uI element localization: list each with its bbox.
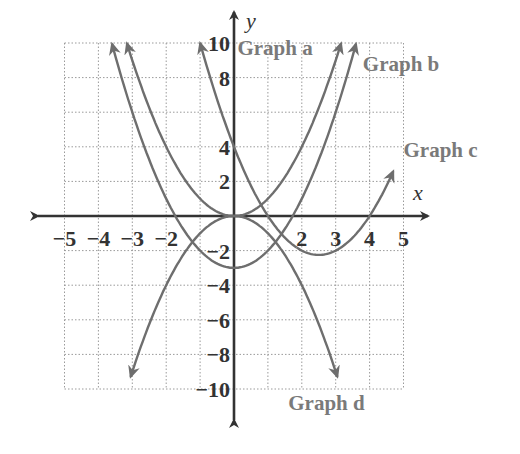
y-tick-label: 4 [219,135,230,160]
y-tick-label: −6 [206,308,230,333]
x-tick-label: −4 [87,226,111,251]
graph-a-curve-right [234,43,341,216]
y-tick-label: 8 [219,66,230,91]
graph-a-curve-left [127,43,234,216]
graph-label: Graph c [404,138,478,162]
y-tick-label: −10 [195,377,230,402]
y-tick-label: −8 [206,342,230,367]
x-axis-label: x [412,180,423,205]
graph-label: Graph d [288,391,365,415]
x-tick-label: −5 [53,226,77,251]
x-tick-label: 4 [364,226,375,251]
x-tick-label: −3 [121,226,145,251]
x-tick-label: −2 [154,226,178,251]
x-tick-label: 5 [398,226,409,251]
curves [112,43,393,377]
y-tick-label: 2 [219,169,230,194]
y-axis-label: y [244,8,256,33]
graph-d-curve-right [234,216,337,377]
y-tick-label: 10 [208,31,230,56]
graph-c-curve-right [297,171,394,255]
graph-label: Graph b [363,52,439,76]
y-tick-label: −4 [206,273,230,298]
graph-label: Graph a [237,36,313,60]
parabola-chart: x y −5−4−3−2234510842−2−4−6−8−10 Graph a… [0,0,520,454]
